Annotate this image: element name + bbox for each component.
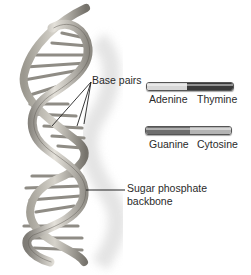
guanine-cytosine-bar: [145, 126, 232, 135]
thymine-label: Thymine: [197, 93, 237, 105]
adenine-label: Adenine: [149, 93, 188, 105]
adenine-thymine-bar: [146, 82, 234, 91]
dna-diagram: Base pairs Adenine Thymine Guanine Cytos…: [0, 0, 251, 275]
cytosine-label: Cytosine: [197, 138, 238, 150]
guanine-label: Guanine: [149, 138, 189, 150]
backbone-label: backbone: [127, 195, 173, 207]
base-pairs-label: Base pairs: [92, 74, 142, 86]
sugar-phosphate-label: Sugar phosphate: [127, 182, 207, 194]
